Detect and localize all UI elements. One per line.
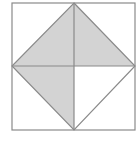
diagram-canvas [0, 0, 140, 144]
